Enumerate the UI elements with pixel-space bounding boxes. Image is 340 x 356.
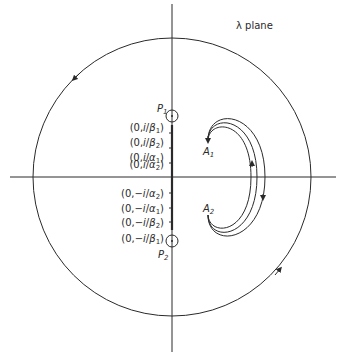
label-i-beta1: (0,i/β1) [130,122,164,135]
label-a1: A1 [202,146,214,159]
axis-label-list: (0,i/β1) (0,i/β2) (0,i/α1) (0,i/α2) (0,−… [121,122,164,246]
lambda-plane-diagram: P1 P2 (0,i/β1) (0,i/β2) (0,i/α1) (0,i/α2… [0,0,340,356]
label-neg-i-beta2: (0,−i/β2) [121,217,164,230]
pole-p1: P1 [157,103,178,122]
label-neg-i-alpha1: (0,−i/α1) [121,203,164,216]
label-neg-i-beta1: (0,−i/β1) [121,233,164,246]
svg-text:P2: P2 [158,249,169,262]
label-neg-i-alpha2: (0,−i/α2) [121,188,164,201]
svg-text:P1: P1 [157,103,168,116]
plane-title: λ plane [236,20,273,31]
label-a2: A2 [202,203,215,216]
outer-arrow-upper-left [74,73,80,79]
label-i-beta2: (0,i/β2) [130,137,164,150]
